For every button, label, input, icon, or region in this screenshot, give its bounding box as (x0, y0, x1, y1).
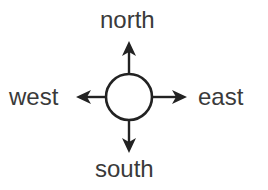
north-arrow-icon (122, 41, 136, 74)
south-label: south (95, 157, 154, 181)
east-label: east (198, 85, 243, 109)
center-circle-icon (106, 74, 152, 120)
west-label: west (9, 85, 58, 109)
west-arrow-icon (76, 90, 106, 104)
north-label: north (100, 8, 155, 32)
south-arrow-icon (122, 120, 136, 153)
east-arrow-icon (152, 90, 187, 104)
